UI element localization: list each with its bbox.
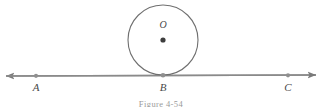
label-center-o: O [159,19,166,30]
point-marker-c [286,73,290,77]
center-point-dot [160,37,165,42]
figure-caption: Figure 4-54 [0,99,322,107]
label-point-c: C [284,81,292,93]
geometry-figure: O A B C Figure 4-54 [0,0,322,107]
figure-canvas: O A B C [0,0,322,107]
label-point-a: A [32,81,40,93]
point-marker-b [161,73,166,78]
label-point-b: B [160,81,167,93]
point-marker-a [34,74,38,78]
